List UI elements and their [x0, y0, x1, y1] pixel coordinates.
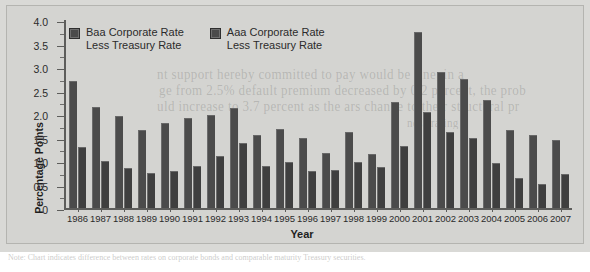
x-axis-tick — [170, 208, 171, 212]
bar-baa-1996 — [299, 138, 307, 208]
bar-aaa-2001 — [423, 112, 431, 208]
x-axis-tick-label: 2007 — [549, 213, 572, 224]
x-axis-tick — [538, 208, 539, 212]
legend-label-baa: Baa Corporate Rate Less Treasury Rate — [86, 26, 184, 51]
y-axis-tick-label: 2.0 — [33, 110, 48, 122]
legend-item-aaa: Aaa Corporate Rate Less Treasury Rate — [210, 26, 325, 51]
y-axis-tick-label: 3.0 — [33, 63, 48, 75]
x-axis-tick — [331, 208, 332, 212]
bar-group — [342, 20, 365, 208]
x-axis-tick-label: 1998 — [342, 213, 365, 224]
y-axis-tick: 1.5 — [57, 140, 64, 141]
x-axis-tick-label: 1991 — [181, 213, 204, 224]
x-axis-tick — [239, 208, 240, 212]
x-axis-tick-label: 2002 — [434, 213, 457, 224]
bar-aaa-2004 — [492, 163, 500, 208]
y-axis-minor-tick — [60, 104, 64, 105]
x-axis-tick — [469, 208, 470, 212]
legend-swatch-icon-aaa — [210, 28, 221, 39]
x-axis-tick — [354, 208, 355, 212]
bar-aaa-2003 — [469, 138, 477, 208]
x-axis-tick-label: 2000 — [388, 213, 411, 224]
bar-aaa-1989 — [147, 173, 155, 208]
y-axis-tick: 0 — [57, 210, 64, 211]
bar-baa-1995 — [276, 129, 284, 208]
x-axis-tick-label: 1993 — [227, 213, 250, 224]
chart-legend: Baa Corporate Rate Less Treasury Rate Aa… — [69, 26, 325, 51]
bar-group — [388, 20, 411, 208]
bar-baa-1998 — [345, 132, 353, 208]
x-axis-tick-label: 1988 — [112, 213, 135, 224]
x-axis-tick-label: 2006 — [526, 213, 549, 224]
y-axis-minor-tick — [60, 198, 64, 199]
legend-label-baa-line1: Baa Corporate Rate — [86, 26, 184, 38]
y-axis-tick: 0.5 — [57, 187, 64, 188]
bar-group — [549, 20, 572, 208]
bar-baa-2001 — [414, 32, 422, 208]
bar-group — [365, 20, 388, 208]
bar-aaa-1999 — [377, 167, 385, 208]
y-axis-tick-label: 2.5 — [33, 87, 48, 99]
y-axis-minor-tick — [60, 128, 64, 129]
y-axis-minor-tick — [60, 34, 64, 35]
x-axis-tick — [492, 208, 493, 212]
bar-baa-2006 — [529, 135, 537, 208]
x-axis-tick-label: 1989 — [135, 213, 158, 224]
bar-group — [434, 20, 457, 208]
x-axis-tick — [400, 208, 401, 212]
bar-aaa-2002 — [446, 132, 454, 208]
bar-aaa-1987 — [101, 161, 109, 208]
x-axis-tick-labels: 1986198719881989199019911992199319941995… — [66, 213, 572, 224]
x-axis-tick-label: 1995 — [273, 213, 296, 224]
bar-aaa-2005 — [515, 178, 523, 208]
x-axis-tick — [285, 208, 286, 212]
bar-baa-2007 — [552, 140, 560, 208]
bar-aaa-1990 — [170, 171, 178, 208]
bar-aaa-1986 — [78, 147, 86, 208]
legend-label-baa-line2: Less Treasury Rate — [86, 39, 181, 51]
bar-group — [480, 20, 503, 208]
x-axis-tick — [377, 208, 378, 212]
x-axis-tick-label: 1987 — [89, 213, 112, 224]
bar-baa-1990 — [161, 123, 169, 208]
x-axis-tick-label: 2003 — [457, 213, 480, 224]
y-axis-tick: 1.0 — [57, 163, 64, 164]
x-axis-tick — [78, 208, 79, 212]
legend-label-aaa: Aaa Corporate Rate Less Treasury Rate — [227, 26, 325, 51]
bar-baa-2000 — [391, 102, 399, 208]
bar-aaa-2006 — [538, 184, 546, 208]
x-axis-tick — [147, 208, 148, 212]
y-axis-tick-label: 4.0 — [33, 16, 48, 28]
bar-aaa-1996 — [308, 171, 316, 208]
y-axis-tick: 3.0 — [57, 69, 64, 70]
bar-baa-1994 — [253, 135, 261, 208]
x-axis-tick-label: 1999 — [365, 213, 388, 224]
bar-baa-1986 — [69, 81, 77, 208]
x-axis-tick-label: 2001 — [411, 213, 434, 224]
bar-group — [411, 20, 434, 208]
y-axis-tick-label: 0 — [42, 204, 48, 216]
bar-baa-1988 — [115, 116, 123, 208]
x-axis-line — [64, 208, 572, 210]
bar-baa-1997 — [322, 153, 330, 208]
x-axis-tick — [423, 208, 424, 212]
bar-aaa-1988 — [124, 168, 132, 208]
bar-baa-1992 — [207, 115, 215, 208]
x-axis-tick-label: 1997 — [319, 213, 342, 224]
bar-baa-2004 — [483, 100, 491, 208]
bar-aaa-2000 — [400, 146, 408, 208]
y-axis-tick: 4.0 — [57, 22, 64, 23]
legend-label-aaa-line2: Less Treasury Rate — [227, 39, 322, 51]
y-axis-tick-label: 0.5 — [33, 181, 48, 193]
x-axis-title: Year — [7, 228, 590, 240]
bar-aaa-2007 — [561, 174, 569, 208]
y-axis-minor-tick — [60, 175, 64, 176]
y-axis-title-wrap: Percentage Points — [19, 66, 33, 186]
bar-aaa-1993 — [239, 143, 247, 208]
x-axis-tick — [446, 208, 447, 212]
figure-panel: nt support hereby committed to pay would… — [0, 0, 590, 252]
bar-baa-1989 — [138, 130, 146, 208]
bar-group — [526, 20, 549, 208]
x-axis-tick-label: 1992 — [204, 213, 227, 224]
y-axis-tick: 3.5 — [57, 46, 64, 47]
